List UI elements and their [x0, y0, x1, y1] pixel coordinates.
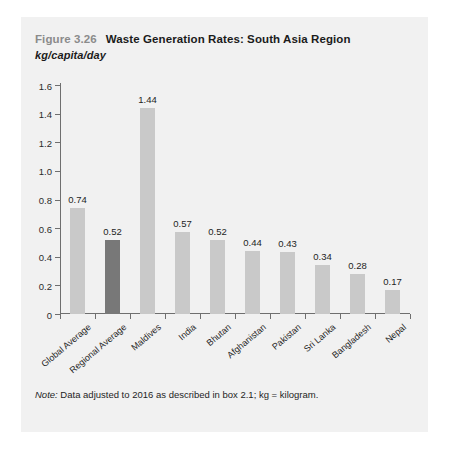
bar-value-label: 0.28 [348, 260, 367, 271]
note-text: Data adjusted to 2016 as described in bo… [58, 389, 319, 400]
figure-header: Figure 3.26Waste Generation Rates: South… [35, 32, 351, 61]
y-axis-tick-label: 0.6 [39, 223, 52, 234]
figure-subtitle: kg/capita/day [35, 49, 351, 61]
x-axis-tick [305, 314, 306, 319]
bar-chart-plot-area: 00.20.40.60.81.01.21.41.6 0.740.521.440.… [60, 85, 410, 314]
bar-value-label: 0.43 [278, 238, 297, 249]
bar-value-label: 0.34 [313, 251, 332, 262]
bar[interactable]: 0.52 [105, 240, 120, 314]
bar-value-label: 0.52 [103, 226, 122, 237]
bar[interactable]: 0.52 [210, 240, 225, 314]
figure-title: Waste Generation Rates: South Asia Regio… [106, 33, 351, 45]
y-axis-tick: 1.4 [55, 114, 60, 115]
bar[interactable]: 0.17 [385, 290, 400, 314]
x-axis-label: Bhutan [205, 322, 233, 348]
x-axis-label: Nepal [383, 322, 407, 345]
y-axis-tick: 1.2 [55, 142, 60, 143]
y-axis-line [60, 83, 61, 314]
bar[interactable]: 1.44 [140, 108, 155, 314]
bar[interactable]: 0.74 [70, 208, 85, 314]
figure-title-line: Figure 3.26Waste Generation Rates: South… [35, 32, 351, 46]
note-label: Note: [35, 389, 58, 400]
x-axis-tick [235, 314, 236, 319]
x-axis-tick [60, 314, 61, 319]
bar[interactable]: 0.43 [280, 252, 295, 314]
x-axis-tick [130, 314, 131, 319]
x-axis-label: Maldives [129, 322, 163, 352]
bar[interactable]: 0.44 [245, 251, 260, 314]
bar-value-label: 0.17 [383, 276, 402, 287]
y-axis-tick: 1.6 [55, 85, 60, 86]
y-axis-tick: 0.6 [55, 228, 60, 229]
y-axis-tick-label: 1.2 [39, 137, 52, 148]
x-axis-label: Pakistan [270, 322, 303, 352]
bar-value-label: 1.44 [138, 94, 157, 105]
y-axis-tick-label: 1.6 [39, 80, 52, 91]
x-axis-tick [375, 314, 376, 319]
y-axis-tick-label: 0.4 [39, 252, 52, 263]
x-axis-label: India [177, 322, 198, 342]
bar-value-label: 0.74 [68, 194, 87, 205]
figure-number: Figure 3.26 [35, 33, 97, 45]
x-axis-tick [165, 314, 166, 319]
y-axis-tick: 1.0 [55, 171, 60, 172]
bar[interactable]: 0.34 [315, 265, 330, 314]
y-axis-tick-label: 1.4 [39, 109, 52, 120]
y-axis-tick-label: 0.8 [39, 195, 52, 206]
bar-value-label: 0.44 [243, 237, 262, 248]
x-axis-tick [200, 314, 201, 319]
x-axis-tick [270, 314, 271, 319]
bar-value-label: 0.57 [173, 218, 192, 229]
y-axis-tick: 0.2 [55, 285, 60, 286]
y-axis-tick: 0.8 [55, 200, 60, 201]
x-axis-tick [340, 314, 341, 319]
y-axis-tick-label: 1.0 [39, 166, 52, 177]
figure-panel: Figure 3.26Waste Generation Rates: South… [21, 17, 428, 432]
bar-value-label: 0.52 [208, 226, 227, 237]
bar[interactable]: 0.57 [175, 232, 190, 314]
y-axis-tick-label: 0.2 [39, 280, 52, 291]
x-axis-tick [95, 314, 96, 319]
figure-note: Note: Data adjusted to 2016 as described… [35, 389, 318, 400]
y-axis-tick: 0.4 [55, 257, 60, 258]
bar[interactable]: 0.28 [350, 274, 365, 314]
x-axis-tick [410, 314, 411, 319]
y-axis-tick-label: 0 [47, 309, 52, 320]
